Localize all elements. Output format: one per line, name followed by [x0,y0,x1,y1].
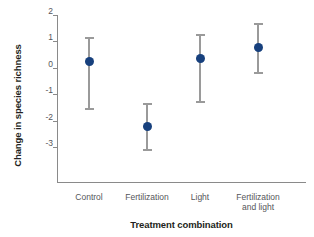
y-tick-label-1: 1 [33,33,53,42]
y-tick-label-neg1: -1 [33,86,53,95]
error-bar-chart: Change in species richness 2 1 0 -1 -2 -… [0,0,314,237]
marker-control[interactable] [85,57,94,66]
error-cap-upper-light [196,34,205,36]
error-bar-light [199,34,201,102]
y-tick-neg3 [53,147,57,148]
x-tick-label-fertilization-and-light: Fertilization and light [216,192,300,212]
marker-fertilization[interactable] [143,122,152,131]
error-cap-lower-fertilization [143,149,152,151]
error-cap-lower-light [196,101,205,103]
y-tick-2 [53,15,57,16]
y-tick-label-neg2: -2 [33,113,53,122]
y-tick-neg2 [53,121,57,122]
y-tick-label-2: 2 [33,7,53,16]
marker-fertilization-and-light[interactable] [254,43,263,52]
x-axis-line [57,182,306,183]
error-cap-upper-fertilization [143,103,152,105]
x-axis-title: Treatment combination [57,219,306,230]
error-cap-upper-fertilization-and-light [254,23,263,25]
error-bar-control [88,37,90,109]
y-tick-1 [53,41,57,42]
y-tick-0 [53,68,57,69]
error-cap-lower-fertilization-and-light [254,72,263,74]
y-tick-neg1 [53,94,57,95]
y-tick-label-neg3: -3 [33,139,53,148]
y-axis-title: Change in species richness [12,26,23,186]
y-tick-label-0: 0 [33,60,53,69]
error-cap-lower-control [85,108,94,110]
plot-area [57,15,306,183]
marker-light[interactable] [196,54,205,63]
error-cap-upper-control [85,37,94,39]
y-axis-line [57,15,58,183]
